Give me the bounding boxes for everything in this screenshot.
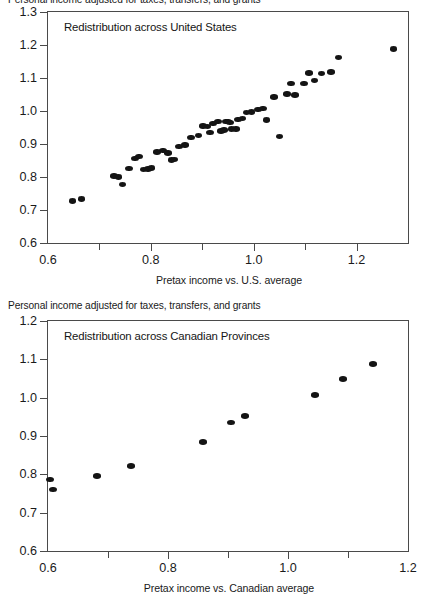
data-point	[195, 133, 203, 138]
data-point	[270, 94, 278, 99]
x-tick-us-6	[357, 243, 358, 251]
x-tick-us-4	[254, 243, 255, 251]
panel-united-states: Personal income adjusted for taxes, tran…	[0, 0, 427, 294]
data-point	[49, 487, 57, 493]
data-point	[127, 463, 135, 469]
data-point	[125, 166, 133, 171]
data-point	[300, 81, 308, 86]
data-point	[335, 55, 343, 60]
x-tick-canada-1	[108, 551, 109, 558]
data-point	[276, 134, 284, 139]
y-tick-label-canada-2: 0.8	[19, 468, 37, 481]
y-tick-label-canada-4: 1.0	[19, 391, 37, 404]
y-tick-us-1	[40, 210, 48, 211]
y-tick-us-6	[40, 45, 48, 46]
x-tick-label-us-4: 1.0	[245, 254, 263, 267]
x-axis-title-canada: Pretax income vs. Canadian average	[48, 582, 410, 594]
x-tick-label-canada-4: 1.0	[279, 562, 297, 575]
y-tick-us-4	[40, 111, 48, 112]
x-tick-label-canada-0: 0.6	[39, 562, 57, 575]
y-axis-caption-canada: Personal income adjusted for taxes, tran…	[8, 300, 261, 311]
data-point	[93, 473, 101, 479]
data-point	[259, 106, 267, 111]
x-tick-canada-5	[348, 551, 349, 558]
data-point	[214, 119, 222, 124]
x-tick-us-2	[151, 243, 152, 251]
panel-canadian-provinces: Personal income adjusted for taxes, tran…	[0, 298, 427, 594]
y-tick-us-0	[40, 243, 48, 244]
y-tick-canada-0	[40, 551, 48, 552]
y-tick-canada-3	[40, 436, 48, 437]
y-tick-label-canada-1: 0.7	[19, 506, 37, 519]
data-point	[226, 120, 234, 125]
x-tick-label-us-2: 0.8	[142, 254, 160, 267]
data-point	[164, 150, 172, 155]
y-tick-canada-6	[40, 321, 48, 322]
data-point	[241, 413, 249, 419]
y-tick-canada-1	[40, 513, 48, 514]
y-tick-label-canada-6: 1.2	[19, 315, 37, 328]
data-point	[119, 182, 127, 187]
x-tick-canada-4	[288, 551, 289, 559]
x-tick-us-3	[202, 243, 203, 250]
data-point	[287, 81, 295, 86]
redistribution-figure: Personal income adjusted for taxes, tran…	[0, 0, 427, 594]
y-tick-label-canada-5: 1.1	[19, 353, 37, 366]
data-point	[311, 392, 319, 398]
data-point	[171, 157, 179, 162]
data-point	[318, 71, 326, 76]
data-point	[263, 117, 271, 122]
data-point	[206, 130, 214, 135]
y-tick-canada-2	[40, 474, 48, 475]
x-axis-title-us: Pretax income vs. U.S. average	[48, 274, 410, 286]
x-tick-label-canada-2: 0.8	[159, 562, 177, 575]
y-tick-label-us-7: 1.3	[19, 6, 37, 19]
y-tick-label-us-5: 1.1	[19, 72, 37, 85]
x-tick-label-us-0: 0.6	[39, 254, 57, 267]
data-point	[291, 92, 299, 97]
x-tick-us-5	[305, 243, 306, 250]
data-point	[46, 477, 54, 483]
data-point	[78, 196, 86, 201]
y-tick-label-us-0: 0.6	[19, 237, 37, 250]
data-point	[69, 198, 77, 203]
data-point	[369, 361, 377, 367]
data-point	[232, 126, 240, 131]
data-point	[187, 135, 195, 140]
y-tick-label-us-3: 0.9	[19, 138, 37, 151]
plot-title-us: Redistribution across United States	[64, 21, 237, 33]
data-point	[305, 70, 313, 75]
data-point	[199, 439, 207, 445]
y-tick-canada-4	[40, 398, 48, 399]
data-point	[181, 142, 189, 147]
x-tick-label-us-6: 1.2	[348, 254, 366, 267]
data-point	[327, 69, 335, 74]
y-tick-label-us-1: 0.7	[19, 204, 37, 217]
data-point	[227, 420, 235, 426]
y-tick-label-canada-0: 0.6	[19, 545, 37, 558]
data-point	[135, 154, 143, 159]
x-tick-canada-2	[168, 551, 169, 559]
y-tick-us-5	[40, 78, 48, 79]
x-tick-canada-3	[228, 551, 229, 558]
y-tick-us-7	[40, 12, 48, 13]
x-tick-us-1	[99, 243, 100, 250]
data-point	[115, 174, 123, 179]
data-point	[339, 376, 347, 382]
data-point	[311, 78, 319, 83]
data-point	[283, 91, 291, 96]
data-point	[390, 46, 398, 51]
data-point	[148, 165, 156, 170]
data-point	[239, 116, 247, 121]
x-tick-label-canada-6: 1.2	[399, 562, 417, 575]
y-axis-caption-us: Personal income adjusted for taxes, tran…	[8, 0, 261, 5]
plot-title-canada: Redistribution across Canadian Provinces	[64, 330, 269, 342]
y-tick-label-us-4: 1.0	[19, 105, 37, 118]
plot-area-canada: Redistribution across Canadian Provinces…	[47, 320, 409, 552]
y-tick-label-us-2: 0.8	[19, 171, 37, 184]
plot-area-us: Redistribution across United States Pret…	[47, 11, 409, 244]
y-tick-canada-5	[40, 359, 48, 360]
y-tick-us-2	[40, 177, 48, 178]
y-tick-label-canada-3: 0.9	[19, 430, 37, 443]
data-point	[220, 127, 228, 132]
